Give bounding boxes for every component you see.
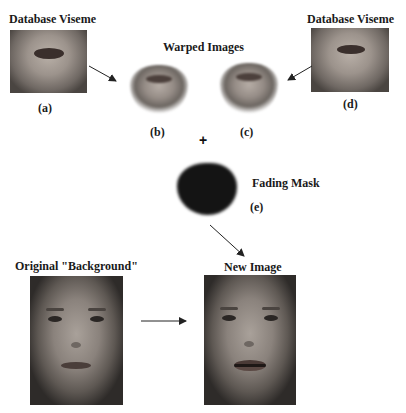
arrows-layer: [0, 0, 406, 413]
arrow-d-to-c: [288, 66, 312, 80]
arrow-mask-to-new-image: [210, 225, 244, 256]
arrow-a-to-b: [89, 66, 116, 81]
